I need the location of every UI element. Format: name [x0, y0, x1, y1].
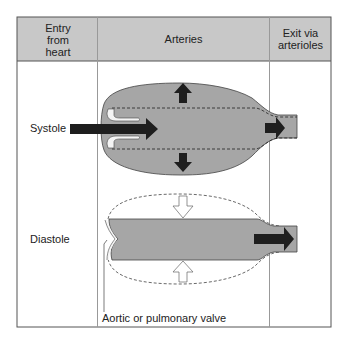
hollow-arrow-up-icon [173, 261, 193, 282]
header-entry-line: from [20, 34, 96, 46]
row-label-systole: Systole [30, 122, 66, 135]
valve-annotation: Aortic or pulmonary valve [102, 312, 226, 325]
header-entry: Entry from heart [20, 22, 96, 58]
diastole-artery [104, 194, 297, 312]
header-entry-line: heart [20, 46, 96, 58]
valve-leader-line [104, 240, 107, 312]
hollow-arrow-down-icon [173, 196, 193, 218]
row-label-diastole: Diastole [30, 233, 70, 246]
header-exit-line: arterioles [270, 39, 331, 51]
header-exit-line: Exit via [270, 27, 331, 39]
header-exit: Exit via arterioles [270, 27, 331, 51]
systole-artery [70, 83, 297, 175]
header-arteries: Arteries [98, 33, 269, 45]
header-arteries-line: Arteries [98, 33, 269, 45]
header-entry-line: Entry [20, 22, 96, 34]
